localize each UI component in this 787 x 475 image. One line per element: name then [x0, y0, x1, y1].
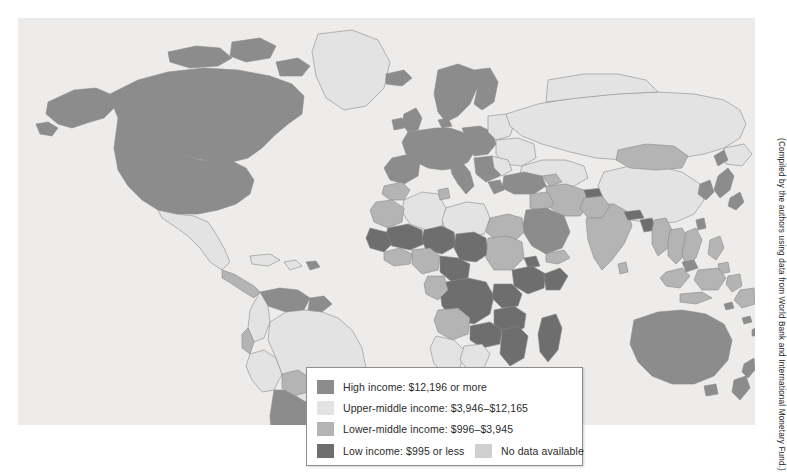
legend-label-upper-middle-income: Upper-middle income: $3,946–$12,165: [343, 402, 528, 414]
world-income-map-figure: .hi{fill:#8c8c8c}.um{fill:#e3e3e3}.lm{fi…: [0, 0, 787, 475]
legend-label-high-income: High income: $12,196 or more: [343, 381, 487, 393]
legend-item-upper-middle-income: Upper-middle income: $3,946–$12,165: [307, 397, 582, 418]
world-map-svg: .hi{fill:#8c8c8c}.um{fill:#e3e3e3}.lm{fi…: [18, 18, 755, 425]
map-legend: High income: $12,196 or more Upper-middl…: [306, 367, 583, 466]
legend-label-low-income: Low income: $995 or less: [343, 445, 464, 457]
legend-swatch-no-data: [475, 444, 492, 458]
legend-swatch-lower-middle-income: [317, 422, 334, 436]
legend-item-high-income: High income: $12,196 or more: [307, 376, 582, 397]
legend-item-no-data: No data available: [475, 444, 584, 458]
legend-swatch-low-income: [317, 444, 334, 458]
legend-item-low-income: Low income: $995 or less No data availab…: [307, 439, 582, 462]
map-canvas: .hi{fill:#8c8c8c}.um{fill:#e3e3e3}.lm{fi…: [18, 18, 755, 425]
legend-item-lower-middle-income: Lower-middle income: $996–$3,945: [307, 418, 582, 439]
legend-label-no-data: No data available: [501, 445, 584, 457]
source-credit: (Compiled by the authors using data from…: [777, 138, 785, 471]
legend-swatch-high-income: [317, 380, 334, 394]
legend-label-lower-middle-income: Lower-middle income: $996–$3,945: [343, 423, 513, 435]
legend-swatch-upper-middle-income: [317, 401, 334, 415]
